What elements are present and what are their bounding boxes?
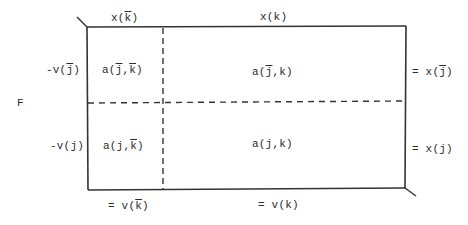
column-header-prefix: x( (111, 12, 125, 24)
column-header-k: x(k) (260, 11, 287, 23)
matrix-frame (0, 0, 468, 225)
top-left-corner-tick (77, 17, 87, 27)
bottom-right-corner-tick (405, 188, 416, 196)
row-total-j: = x(j) (412, 143, 453, 155)
column-header-text: x(k) (260, 11, 287, 23)
row-total-jbar: = x(j) (412, 66, 453, 78)
left-border (87, 27, 88, 190)
row-total-text: = x(j) (412, 143, 453, 155)
bottom-border (88, 188, 405, 190)
cell-j-kbar: a(j,k) (103, 140, 144, 152)
side-label-f: F (17, 97, 24, 109)
row-header-text: -v(j) (50, 140, 84, 152)
cell-jbar-kbar: a(j,k) (102, 64, 143, 76)
column-header-suffix: ) (131, 12, 138, 24)
column-total-text: = v(k) (258, 199, 299, 211)
row-header-jbar: -v(j) (46, 64, 80, 76)
row-header-prefix: -v( (46, 64, 66, 76)
cell-jbar-k: a(j,k) (252, 66, 293, 78)
top-border (87, 26, 406, 27)
side-label-text: F (17, 97, 24, 109)
row-header-j: -v(j) (50, 140, 84, 152)
cell-j-k: a(j,k) (252, 138, 293, 150)
right-border (405, 26, 406, 188)
column-total-k: = v(k) (258, 199, 299, 211)
column-total-kbar: = v(k) (108, 200, 149, 212)
column-header-kbar: x(k) (111, 12, 138, 24)
horizontal-partition-line (88, 101, 405, 103)
cell-text: a(j,k) (252, 138, 293, 150)
row-header-suffix: ) (73, 64, 80, 76)
